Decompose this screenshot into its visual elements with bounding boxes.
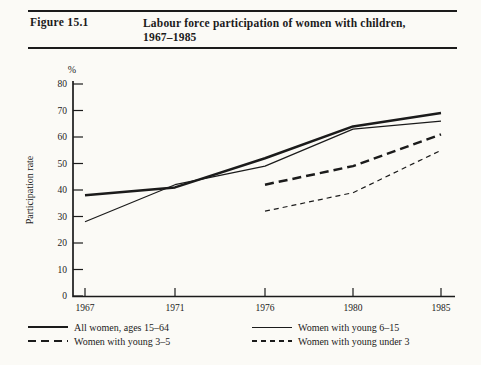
svg-text:1976: 1976 (256, 303, 275, 313)
legend-item-young-under-3: Women with young under 3 (252, 335, 409, 347)
svg-text:70: 70 (58, 106, 68, 116)
series-line (85, 113, 441, 195)
legend-label-young-under-3: Women with young under 3 (298, 336, 409, 347)
series-line (265, 150, 441, 211)
legend-item-all-women: All women, ages 15–64 (28, 321, 169, 333)
figure-title-line1: Labour force participation of women with… (143, 16, 423, 30)
legend-line-thin-dashed-icon (252, 340, 292, 341)
legend-line-thick-dashed-icon (28, 340, 68, 343)
svg-text:1967: 1967 (76, 303, 95, 313)
line-chart: 0102030405060708019671971197619801985 % … (0, 0, 481, 365)
svg-text:1980: 1980 (344, 303, 363, 313)
legend-label-young-3-5: Women with young 3–5 (74, 336, 170, 347)
top-rule (28, 10, 457, 12)
chart-plot-area: 0102030405060708019671971197619801985 (58, 79, 456, 313)
svg-text:20: 20 (58, 238, 68, 248)
svg-text:1985: 1985 (432, 303, 451, 313)
legend-line-thin-solid-icon (252, 327, 292, 328)
svg-text:10: 10 (58, 265, 68, 275)
legend-label-young-6-15: Women with young 6–15 (298, 322, 399, 333)
figure-page: Figure 15.1 Labour force participation o… (0, 0, 481, 365)
figure-title-line2: 1967–1985 (143, 30, 423, 44)
header-divider-rule (28, 47, 457, 49)
series-line (85, 121, 441, 222)
svg-text:30: 30 (58, 212, 68, 222)
svg-text:1971: 1971 (166, 303, 185, 313)
svg-text:60: 60 (58, 132, 68, 142)
legend-line-thick-solid-icon (28, 326, 68, 328)
series-line (265, 134, 441, 184)
svg-text:0: 0 (62, 291, 67, 301)
svg-text:80: 80 (58, 79, 68, 89)
figure-title: Labour force participation of women with… (143, 16, 423, 44)
figure-number: Figure 15.1 (30, 16, 89, 28)
legend-item-young-6-15: Women with young 6–15 (252, 321, 399, 333)
svg-text:50: 50 (58, 159, 68, 169)
y-axis-title: Participation rate (24, 155, 35, 224)
legend-label-all-women: All women, ages 15–64 (74, 322, 169, 333)
y-axis-unit-label: % (68, 64, 76, 75)
svg-text:40: 40 (58, 185, 68, 195)
legend-item-young-3-5: Women with young 3–5 (28, 335, 170, 347)
